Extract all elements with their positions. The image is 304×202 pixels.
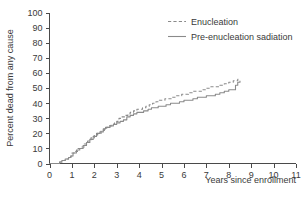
series-line-pre-enucleation-sadiation bbox=[50, 81, 240, 164]
y-tick-label: 60 bbox=[32, 68, 42, 78]
x-tick-label: 4 bbox=[137, 170, 142, 180]
x-axis-title: Years since enrollment bbox=[205, 175, 296, 185]
legend-label-enucleation: Enucleation bbox=[191, 17, 238, 27]
y-tick-label: 10 bbox=[32, 144, 42, 154]
y-tick-label: 0 bbox=[37, 159, 42, 169]
y-tick-label: 80 bbox=[32, 38, 42, 48]
x-tick-label: 0 bbox=[47, 170, 52, 180]
y-tick-label: 40 bbox=[32, 99, 42, 109]
x-tick-label: 2 bbox=[92, 170, 97, 180]
y-tick-label: 50 bbox=[32, 83, 42, 93]
legend: Enucleation Pre-enucleation sadiation bbox=[168, 17, 293, 42]
legend-label-pre-enucleation-sadiation: Pre-enucleation sadiation bbox=[191, 32, 293, 42]
x-tick-label: 1 bbox=[69, 170, 74, 180]
y-tick-label: 90 bbox=[32, 23, 42, 33]
series-line-enucleation bbox=[50, 79, 240, 163]
y-tick-label: 70 bbox=[32, 53, 42, 63]
y-tick-label: 100 bbox=[27, 8, 42, 18]
y-axis-title: Percent dead from any cause bbox=[5, 29, 15, 147]
x-tick-label: 6 bbox=[181, 170, 186, 180]
y-tick-label: 20 bbox=[32, 129, 42, 139]
x-tick-label: 3 bbox=[114, 170, 119, 180]
y-tick-label: 30 bbox=[32, 114, 42, 124]
chart-canvas: 0102030405060708090100 01234567891011 Ye… bbox=[0, 0, 304, 202]
survival-chart: 0102030405060708090100 01234567891011 Ye… bbox=[0, 0, 304, 202]
y-axis-ticks: 0102030405060708090100 bbox=[27, 8, 49, 169]
x-tick-label: 5 bbox=[159, 170, 164, 180]
